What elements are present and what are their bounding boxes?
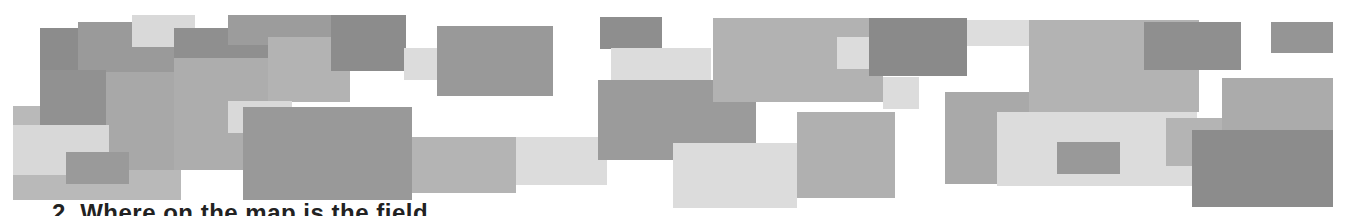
gray-rectangle (1144, 22, 1241, 70)
question-text: 2. Where on the map is the field ... (52, 199, 457, 216)
gray-rectangle (1271, 22, 1333, 53)
gray-rectangle (967, 20, 1029, 46)
gray-rectangle (40, 70, 106, 125)
gray-rectangle (437, 26, 553, 96)
gray-rectangle (516, 137, 607, 185)
gray-rectangle (611, 48, 711, 80)
gray-rectangle (243, 107, 412, 200)
gray-rectangle (1222, 78, 1333, 130)
gray-rectangle (1192, 130, 1333, 207)
gray-rectangle (600, 17, 662, 49)
gray-rectangle (797, 112, 895, 198)
gray-rectangle (331, 15, 406, 71)
gray-rectangle (869, 18, 967, 76)
gray-rectangle (1057, 142, 1120, 174)
gray-rectangle (412, 137, 516, 193)
gray-rectangle (673, 143, 797, 208)
gray-rectangle (66, 152, 129, 184)
gray-rectangle (883, 77, 919, 109)
rectangle-collage-figure (0, 0, 1346, 216)
